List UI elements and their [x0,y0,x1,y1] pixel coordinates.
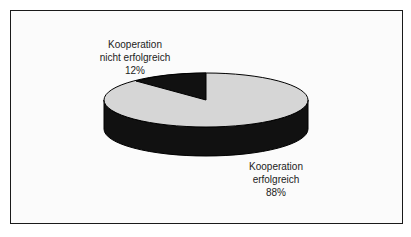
label-nicht-erfolgreich: Kooperation nicht erfolgreich 12% [95,38,175,77]
label-line: nicht erfolgreich [95,51,175,64]
label-percent: 88% [240,186,312,199]
label-line: Kooperation [240,160,312,173]
label-percent: 12% [95,64,175,77]
label-line: erfolgreich [240,173,312,186]
label-erfolgreich: Kooperation erfolgreich 88% [240,160,312,199]
pie-chart [0,0,411,237]
label-line: Kooperation [95,38,175,51]
